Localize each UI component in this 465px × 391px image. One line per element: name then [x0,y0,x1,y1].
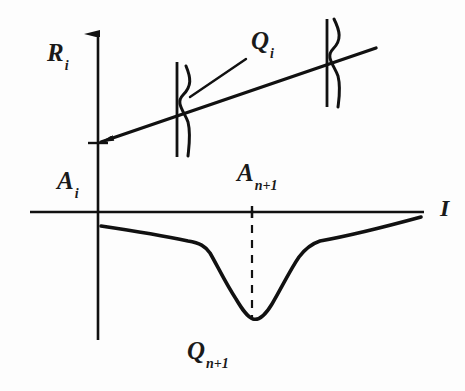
axis-label-A-n-plus-1: An+1 [237,160,276,188]
axis-label-A-i-base: A [57,167,74,194]
dip-curve-q-n-plus-1 [101,217,421,319]
axis-label-A-n-plus-1-sub: n+1 [255,178,278,193]
axis-label-R-i-base: R [47,39,64,66]
rising-resistance-line [101,48,376,142]
axis-label-I: I [440,196,449,220]
curve-label-Q-i-sub: i [270,46,274,61]
curve-label-Q-i: Qi [251,28,273,56]
axis-label-A-i: Ai [57,168,78,196]
axis-label-A-i-sub: i [75,186,79,201]
axis-label-R-i: Ri [47,40,68,68]
curve-label-Q-i-base: Q [251,27,269,54]
axis-label-A-n-plus-1-base: A [237,159,254,186]
axis-label-R-i-sub: i [65,58,69,73]
curve-label-Q-n-plus-1-sub: n+1 [206,356,229,371]
axis-label-I-base: I [440,195,449,221]
figure-root: Ri Ai An+1 Qi Qn+1 I [0,0,465,391]
curve-label-Q-n-plus-1-base: Q [187,337,205,364]
q-i-leader-line [190,59,246,97]
curve-label-Q-n-plus-1: Qn+1 [187,338,228,366]
